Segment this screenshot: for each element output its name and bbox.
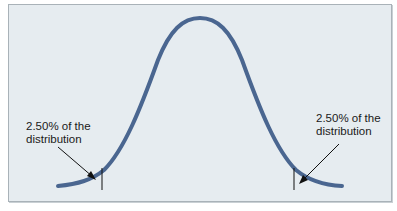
right-annotation-line1: 2.50% of the (316, 112, 381, 125)
right-annotation: 2.50% of the distribution (316, 112, 381, 138)
normal-curve-diagram (0, 0, 397, 211)
left-annotation-line1: 2.50% of the (26, 120, 91, 133)
right-arrow (302, 144, 339, 181)
left-annotation-line2: distribution (26, 133, 91, 146)
bell-curve (58, 18, 342, 186)
right-annotation-line2: distribution (316, 125, 381, 138)
left-arrow (58, 147, 93, 177)
left-annotation: 2.50% of the distribution (26, 120, 91, 146)
